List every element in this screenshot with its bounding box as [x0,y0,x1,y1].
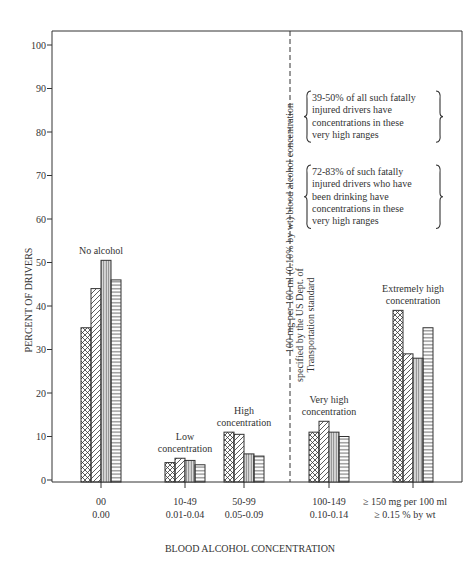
annotation-2: 72-83% of such fatallyinjured drivers wh… [304,165,443,229]
x-tick-label-pct: 0.05-0.09 [225,509,263,520]
bar-diagonal [91,289,101,482]
right-brace [436,165,443,229]
reference-line-label: specified by the US Dept. of [294,267,305,382]
annotation-line: very high ranges [312,215,379,226]
y-tick-label: 60 [36,214,46,225]
y-tick-label: 70 [36,170,46,181]
group-label: No alcohol [79,245,123,256]
group-label: Extremely high [382,283,444,294]
bar-horizontal [423,328,433,482]
x-tick-label-pct: 0.01-0.04 [166,509,204,520]
y-tick-label: 10 [36,431,46,442]
x-tick-label-pct: 0.00 [92,509,110,520]
bar-crosshatch [81,328,91,482]
annotation-1: 39-50% of all such fatallyinjured driver… [304,91,443,142]
y-tick-label: 0 [41,475,46,486]
left-brace [304,165,311,229]
bar-crosshatch [165,463,175,482]
group-label: concentration [158,443,212,454]
group-label: concentration [386,295,440,306]
annotation-line: injured drivers who have [312,178,412,189]
x-tick-label-mg: 50-99 [232,496,255,507]
y-tick-label: 100 [31,40,46,51]
annotation-line: 72-83% of such fatally [312,166,403,177]
bar-vertical [244,454,254,482]
x-tick-label-pct: 0.10-0.14 [310,509,348,520]
group-label: Very high [309,394,348,405]
y-tick-label: 90 [36,83,46,94]
bar-crosshatch [309,432,319,482]
annotation-line: injured drivers have [312,104,393,115]
x-tick-label-mg: 10-49 [173,496,196,507]
bar-diagonal [175,458,185,482]
bar-chart: 0102030405060708090100 000.0010-490.01-0… [0,0,463,565]
y-axis-label: PERCENT OF DRIVERS [23,248,34,353]
x-tick-label-mg: 00 [96,496,106,507]
group-label: concentration [302,406,356,417]
annotation-line: very high ranges [312,129,379,140]
bar-horizontal [339,437,349,483]
group-label: Low [176,431,195,442]
right-brace [436,91,443,142]
annotation-line: 39-50% of all such fatally [312,92,416,103]
group-label: concentration [217,417,271,428]
y-tick-label: 80 [36,127,46,138]
reference-line-label: Transportation standard [305,278,316,373]
left-brace [304,91,311,142]
x-tick-label-pct: ≥ 0.15 % by wt [374,509,436,520]
bar-horizontal [195,465,205,482]
bar-vertical [413,358,423,482]
group-label: High [234,405,254,416]
y-tick-label: 40 [36,301,46,312]
y-tick-label: 30 [36,344,46,355]
x-tick-label-mg: 100-149 [312,496,345,507]
y-tick-label: 50 [36,257,46,268]
x-tick-label-mg: ≥ 150 mg per 100 ml [363,496,447,507]
bar-crosshatch [224,432,234,482]
annotation-line: been drinking have [312,191,389,202]
y-tick-label: 20 [36,388,46,399]
annotation-line: concentrations in these [312,117,404,128]
bar-crosshatch [393,310,403,482]
x-axis-label: BLOOD ALCOHOL CONCENTRATION [165,543,335,554]
bar-horizontal [254,456,264,482]
bar-diagonal [234,434,244,482]
bar-diagonal [403,354,413,482]
bar-vertical [185,460,195,482]
bar-vertical [329,432,339,482]
annotation-line: concentrations in these [312,203,404,214]
bar-diagonal [319,421,329,482]
bar-vertical [101,260,111,482]
bar-horizontal [111,280,121,482]
